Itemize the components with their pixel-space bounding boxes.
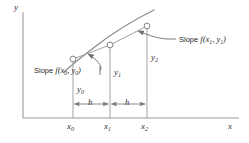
slope-right-leader: [138, 31, 166, 39]
point-marker-x2y2: [144, 23, 150, 29]
slope-right-close: ): [223, 34, 226, 44]
x-tick-x2-subscript: 2: [145, 126, 148, 132]
x-axis-label: x: [228, 122, 232, 131]
solution-curve: [64, 10, 154, 72]
y-value-label-y1: y1: [114, 68, 121, 77]
y-value-y0-subscript: 0: [81, 89, 84, 95]
x-tick-x1-subscript: 1: [108, 126, 111, 132]
slope-right-sub-1: 1: [209, 39, 212, 45]
x-tick-x0-subscript: 0: [71, 126, 74, 132]
slope-left-sub-1: 0: [64, 70, 67, 76]
point-marker-x1y1: [107, 42, 113, 48]
x-tick-label-x1: x1: [104, 122, 111, 131]
step-size-label-2: h: [125, 98, 129, 107]
euler-segment-2: [110, 26, 147, 45]
slope-right-mid: , y: [212, 34, 220, 44]
slope-annotation-left: Slope f(x0, y0): [34, 66, 81, 75]
slope-left-fn: f(x: [55, 65, 64, 75]
y-value-label-y2: y2: [151, 53, 158, 62]
y-value-y1-subscript: 1: [118, 72, 121, 78]
point-marker-x0y0: [70, 56, 76, 62]
euler-method-diagram: y x x0 x1 x2 y0 y1 y2 h h Slope f(x0, y0…: [0, 0, 249, 143]
slope-left-close: ): [78, 65, 81, 75]
slope-left-mid: , y: [67, 65, 75, 75]
slope-annotation-right: Slope f(x1, y1): [179, 35, 226, 44]
slope-left-prefix: Slope: [34, 66, 55, 75]
y-value-label-y0: y0: [77, 85, 84, 94]
y-value-y2-subscript: 2: [155, 57, 158, 63]
x-tick-label-x2: x2: [141, 122, 148, 131]
slope-right-fn: f(x: [200, 34, 209, 44]
step-size-label-1: h: [88, 98, 92, 107]
slope-right-prefix: Slope: [179, 35, 200, 44]
y-axis-label: y: [14, 3, 18, 12]
slope-left-leader: [88, 54, 101, 71]
slope-left-sub-2: 0: [75, 70, 78, 76]
slope-right-sub-2: 1: [220, 39, 223, 45]
x-tick-label-x0: x0: [67, 122, 74, 131]
euler-segment-1: [73, 45, 110, 59]
